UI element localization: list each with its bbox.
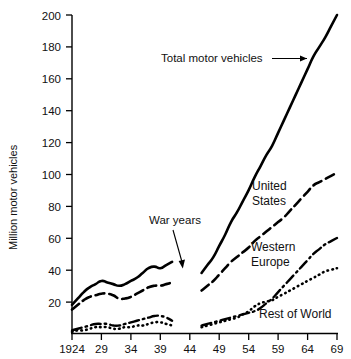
x-axis-ticks [72, 334, 337, 341]
series-label-line2: Europe [251, 255, 290, 269]
y-tick-label: 120 [42, 137, 61, 149]
y-tick-label: 60 [48, 233, 61, 245]
annotation-war-years: War years [149, 214, 201, 269]
y-tick-label: 140 [42, 105, 61, 117]
y-tick-label: 40 [48, 265, 61, 277]
x-tick-label: 39 [154, 343, 167, 355]
series-label-line2: States [252, 194, 286, 208]
y-tick-label: 200 [42, 10, 61, 22]
series-line-united-states [72, 173, 337, 310]
y-axis-title-text: Million motor vehicles [7, 144, 19, 250]
arrowhead-icon [300, 55, 307, 61]
chart-svg: Million motor vehicles 200 180 160 140 1… [0, 0, 351, 359]
y-tick-label: 100 [42, 169, 61, 181]
series-label-line1: Western [251, 240, 295, 254]
y-tick-label: 20 [48, 297, 61, 309]
x-tick-label: 34 [125, 343, 138, 355]
y-tick-label: 180 [42, 41, 61, 53]
series-line-rest-of-world [72, 268, 337, 332]
x-tick-label: 1924 [59, 343, 85, 355]
series-label-text: Rest of World [259, 307, 331, 321]
x-tick-label: 29 [95, 343, 108, 355]
x-tick-label: 69 [331, 343, 344, 355]
y-axis-tick-labels: 200 180 160 140 120 100 80 60 40 20 [42, 10, 61, 309]
x-tick-label: 59 [272, 343, 285, 355]
y-axis-ticks [66, 15, 72, 302]
series-label-western-europe: Western Europe [251, 240, 295, 269]
series-label-united-states: United States [252, 179, 287, 208]
x-tick-label: 49 [213, 343, 226, 355]
annotation-total-motor-vehicles: Total motor vehicles [161, 52, 307, 64]
y-tick-label: 80 [48, 201, 61, 213]
annotation-war-years-label: War years [149, 214, 201, 226]
series-label-line1: United [252, 179, 287, 193]
y-tick-label: 160 [42, 73, 61, 85]
annotation-total-label: Total motor vehicles [161, 52, 263, 64]
x-tick-label: 64 [301, 343, 314, 355]
x-tick-label: 54 [242, 343, 255, 355]
series-label-rest-of-world: Rest of World [259, 307, 331, 321]
x-axis-tick-labels: 1924 29 34 39 44 49 54 59 64 69 [59, 343, 343, 355]
x-tick-label: 44 [183, 343, 196, 355]
arrowhead-icon [179, 260, 185, 269]
y-axis-title: Million motor vehicles [7, 144, 19, 250]
chart-figure: Million motor vehicles 200 180 160 140 1… [0, 0, 351, 359]
